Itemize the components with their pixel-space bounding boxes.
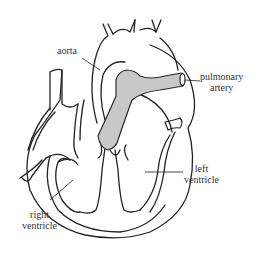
aortic-branches [113,20,156,34]
right-atrium-wall [28,108,55,150]
superior-vena-cava [50,69,78,110]
right-atrium-inner [74,100,84,158]
pulmonary-artery-opening [180,74,185,86]
left-ventricle-label-line2: ventricle [184,174,219,185]
pulmonary-artery-label-line2: artery [200,82,243,93]
aorta-leader-line [82,58,100,70]
pulmonary-artery-leader-line [185,80,200,81]
pulmonary-artery-label-line1: pulmonary [200,71,243,82]
aorta-label-text: aorta [57,45,77,56]
right-ventricle-leader-line [50,180,73,200]
left-ventricle-label: left ventricle [184,163,219,185]
septum [80,148,140,213]
left-ventricle-label-line1: left [184,163,219,174]
right-ventricle-label-line2: ventricle [22,220,57,231]
aorta-label: aorta [57,45,77,56]
heart-diagram: aorta pulmonary artery left ventricle ri… [0,0,260,261]
pulmonary-artery [98,70,184,150]
right-ventricle-label: right ventricle [22,209,57,231]
right-ventricle-label-line1: right [22,209,57,220]
right-ventricle-outer [47,156,165,232]
pulmonary-artery-label: pulmonary artery [200,71,243,93]
right-ventricle-wall [56,158,80,212]
